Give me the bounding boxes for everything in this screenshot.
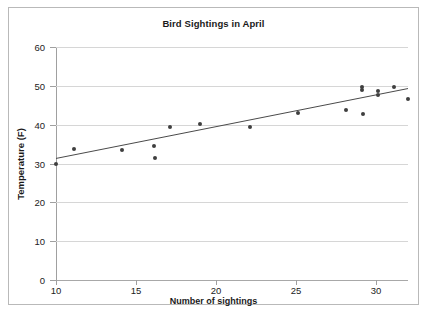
data-point <box>376 93 380 97</box>
data-point <box>361 112 365 116</box>
x-tick-label: 20 <box>196 285 236 296</box>
data-point <box>296 111 300 115</box>
x-tick-label: 25 <box>276 285 316 296</box>
data-point <box>120 148 124 152</box>
x-tick-label: 15 <box>116 285 156 296</box>
trendline <box>56 47 408 280</box>
data-point <box>344 108 348 112</box>
data-point <box>72 147 76 151</box>
data-point <box>198 122 202 126</box>
y-tick-label: 30 <box>9 159 45 170</box>
data-point <box>152 144 156 148</box>
data-point <box>392 85 396 89</box>
x-axis-title: Number of sightings <box>9 296 418 306</box>
y-tick-label: 50 <box>9 81 45 92</box>
y-tick-label: 0 <box>9 275 45 286</box>
data-point <box>153 156 157 160</box>
y-tick-label: 60 <box>9 42 45 53</box>
gridline <box>56 280 408 281</box>
data-point <box>360 88 364 92</box>
data-point <box>168 125 172 129</box>
x-tick-label: 30 <box>356 285 396 296</box>
data-point <box>54 162 58 166</box>
y-tick-label: 40 <box>9 120 45 131</box>
x-tick-label: 10 <box>36 285 76 296</box>
y-tick-label: 20 <box>9 197 45 208</box>
y-tick-label: 10 <box>9 236 45 247</box>
chart-container: Bird Sightings in April Temperature (F) … <box>8 7 419 305</box>
data-point <box>406 97 410 101</box>
chart-title: Bird Sightings in April <box>9 18 418 29</box>
plot-area <box>56 47 408 280</box>
